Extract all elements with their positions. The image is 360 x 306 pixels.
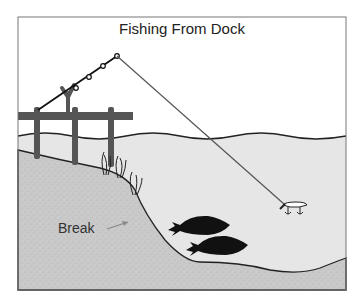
dock-post bbox=[72, 107, 78, 165]
fishing-diagram bbox=[0, 0, 360, 306]
dock-post bbox=[108, 107, 114, 167]
dock-post bbox=[34, 107, 40, 159]
break-label: Break bbox=[58, 220, 95, 236]
diagram-title: Fishing From Dock bbox=[18, 20, 346, 37]
